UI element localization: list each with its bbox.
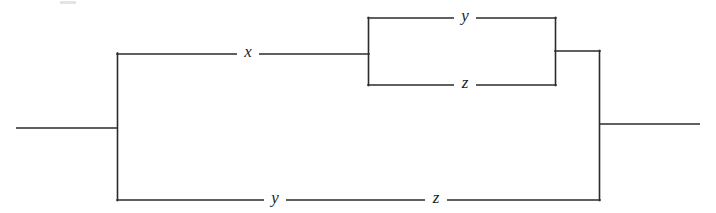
circuit-diagram-figure: x y z y z: [0, 0, 716, 213]
switch-label-z-lower: z: [432, 188, 440, 207]
switch-label-y-lower: y: [269, 188, 279, 207]
switch-label-y-top: y: [459, 6, 469, 25]
circuit-svg-canvas: x y z y z: [0, 0, 716, 213]
switch-label-x: x: [243, 42, 252, 61]
switch-label-z-bottom: z: [461, 73, 469, 92]
scan-artifact-speck: [60, 1, 76, 4]
